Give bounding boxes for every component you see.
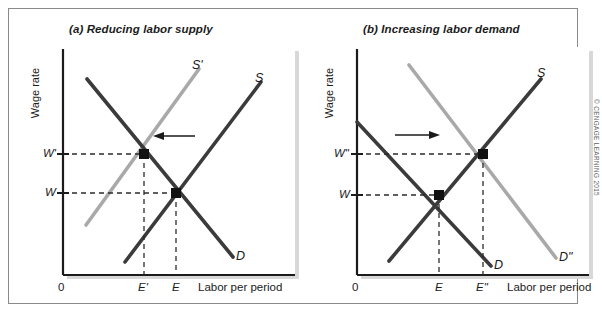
panel-b-ylabel-w: W xyxy=(339,188,350,200)
panel-a-ylabel-w-prime: W' xyxy=(43,147,56,159)
panel-b-ylabel-w-double-prime: W" xyxy=(334,147,349,159)
panel-b-label-s: S xyxy=(537,66,545,80)
panel-a: (a) Reducing labor supply Wage rate xyxy=(17,9,307,305)
panel-b-curve-s xyxy=(389,79,541,261)
panel-b-xlabel-e-double-prime: E" xyxy=(476,281,488,293)
panel-b-point-original xyxy=(434,190,444,200)
panel-a-label-d: D xyxy=(236,249,245,263)
panel-a-graph xyxy=(17,9,307,305)
figure-outer-frame: (a) Reducing labor supply Wage rate xyxy=(8,8,578,304)
panel-a-label-s: S xyxy=(255,71,263,85)
panel-b-label-d-double-prime: D" xyxy=(559,250,572,264)
panel-a-curve-s xyxy=(125,82,261,262)
panel-a-shift-arrow-left xyxy=(153,132,195,140)
panel-a-origin: 0 xyxy=(58,281,64,293)
panel-a-ylabel-w: W xyxy=(45,186,56,198)
panel-b-xlabel-e: E xyxy=(435,281,443,293)
panel-b-origin: 0 xyxy=(352,281,358,293)
panel-b: (b) Increasing labor demand Wage rate xyxy=(311,9,601,305)
panel-a-x-axis-label: Labor per period xyxy=(198,281,282,293)
panel-a-xlabel-e-prime: E' xyxy=(138,281,148,293)
copyright-notice: © CENGAGE LEARNING 2015 xyxy=(593,99,600,196)
panel-a-xlabel-e: E xyxy=(172,281,180,293)
panel-a-point-original xyxy=(171,188,181,198)
panel-b-x-axis-label: Labor per period xyxy=(507,281,591,293)
panel-a-label-s-prime: S' xyxy=(192,58,203,72)
panel-b-point-new xyxy=(478,149,488,159)
panel-b-shift-arrow-right xyxy=(395,131,440,139)
panel-a-curve-d xyxy=(87,79,233,257)
panel-b-label-d: D xyxy=(494,258,503,272)
panel-a-point-new xyxy=(139,149,149,159)
panel-b-graph xyxy=(311,9,601,305)
figure-root: (a) Reducing labor supply Wage rate xyxy=(0,0,602,312)
